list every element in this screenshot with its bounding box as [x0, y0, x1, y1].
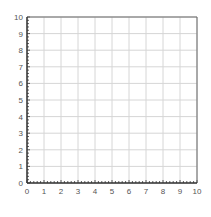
gridlines [27, 17, 197, 183]
x-tick-label: 0 [25, 187, 30, 196]
x-tick-label: 4 [93, 187, 98, 196]
x-tick-label: 1 [42, 187, 47, 196]
x-tick-label: 2 [59, 187, 64, 196]
y-tick-label: 6 [19, 79, 24, 88]
y-tick-label: 4 [19, 113, 24, 122]
y-tick-label: 2 [19, 146, 24, 155]
x-tick-label: 5 [110, 187, 115, 196]
y-tick-label: 1 [19, 162, 24, 171]
y-tick-label: 9 [19, 30, 24, 39]
empty-grid-chart: 012345678910 012345678910 [0, 0, 211, 217]
x-axis-tick-labels: 012345678910 [25, 187, 202, 196]
x-tick-label: 9 [178, 187, 183, 196]
y-tick-label: 8 [19, 46, 24, 55]
y-tick-label: 7 [19, 63, 24, 72]
y-tick-label: 5 [19, 96, 24, 105]
x-tick-label: 3 [76, 187, 81, 196]
y-tick-label: 3 [19, 129, 24, 138]
x-tick-label: 10 [193, 187, 202, 196]
y-tick-label: 10 [14, 13, 23, 22]
x-tick-label: 6 [127, 187, 132, 196]
y-tick-label: 0 [19, 179, 24, 188]
x-tick-label: 7 [144, 187, 149, 196]
y-axis-tick-labels: 012345678910 [14, 13, 23, 188]
x-tick-label: 8 [161, 187, 166, 196]
